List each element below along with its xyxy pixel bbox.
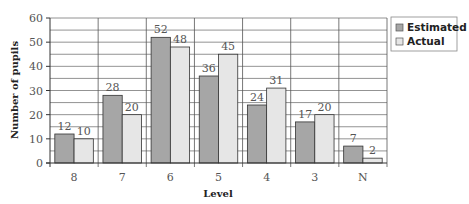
y-tick-label: 40 (29, 60, 43, 73)
data-label-actual-5: 45 (221, 40, 235, 53)
y-tick-label: 10 (29, 133, 43, 146)
y-tick-label: 20 (29, 109, 43, 122)
x-axis-title: Level (203, 188, 233, 199)
y-tick-label: 0 (36, 157, 43, 170)
bar-actual-N (363, 158, 382, 163)
data-label-actual-N: 2 (369, 144, 376, 157)
data-label-estimated-3: 17 (298, 108, 312, 121)
legend-label-estimated: Estimated (407, 21, 467, 33)
data-label-actual-3: 20 (317, 101, 331, 114)
data-label-estimated-N: 7 (350, 132, 357, 145)
bar-estimated-4 (247, 105, 266, 163)
y-axis-title: Number of pupils (9, 41, 20, 139)
bar-actual-7 (122, 115, 141, 163)
x-tick-label: 3 (311, 171, 318, 184)
bar-actual-3 (315, 115, 334, 163)
bar-estimated-8 (55, 134, 74, 163)
data-label-estimated-6: 52 (154, 23, 168, 36)
data-label-estimated-7: 28 (106, 81, 120, 94)
data-label-estimated-5: 36 (202, 62, 216, 75)
bar-estimated-7 (103, 95, 122, 163)
data-label-actual-8: 10 (77, 125, 91, 138)
y-tick-label: 60 (29, 12, 43, 25)
bars (55, 37, 382, 163)
bar-estimated-3 (296, 122, 315, 163)
x-tick-label: 4 (263, 171, 270, 184)
bar-estimated-5 (199, 76, 218, 163)
bar-actual-4 (267, 88, 286, 163)
data-label-actual-6: 48 (173, 33, 187, 46)
y-tick-label: 30 (29, 85, 43, 98)
legend-label-actual: Actual (407, 35, 445, 47)
x-tick-label: N (358, 171, 368, 184)
bar-estimated-6 (151, 37, 170, 163)
legend-swatch-actual (396, 38, 403, 45)
data-label-estimated-4: 24 (250, 91, 264, 104)
y-tick-label: 50 (29, 36, 43, 49)
data-label-estimated-8: 12 (57, 120, 71, 133)
x-tick-label: 6 (167, 171, 174, 184)
x-tick-label: 5 (215, 171, 222, 184)
bar-actual-5 (219, 54, 238, 163)
bar-actual-8 (74, 139, 93, 163)
bar-estimated-N (344, 146, 363, 163)
legend: Estimated Actual (391, 17, 467, 51)
legend-swatch-estimated (396, 24, 403, 31)
bar-chart: 12102820524836452431172072 876543N010203… (0, 0, 469, 204)
data-label-actual-4: 31 (269, 74, 283, 87)
x-tick-label: 7 (119, 171, 126, 184)
data-label-actual-7: 20 (125, 101, 139, 114)
bar-actual-6 (170, 47, 189, 163)
x-tick-label: 8 (71, 171, 78, 184)
